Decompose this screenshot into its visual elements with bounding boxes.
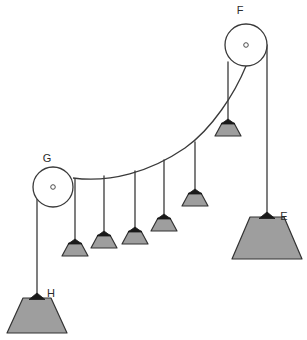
small-weight-cap-5	[188, 189, 202, 194]
pulley-hub-G	[51, 185, 56, 190]
label-weight-H: H	[47, 287, 55, 299]
small-weight-body-4	[151, 218, 177, 231]
pulley-F	[225, 24, 267, 66]
large-weight-E	[232, 212, 302, 259]
small-weight-cap-6	[221, 119, 235, 124]
small-weight-6	[215, 119, 241, 136]
small-weight-3	[122, 227, 148, 244]
large-weight-cap-H	[29, 293, 45, 300]
pulley-hub-F	[244, 43, 249, 48]
pulley-cable-diagram: F G E H	[0, 0, 307, 340]
small-weight-4	[151, 214, 177, 231]
small-weight-body-2	[91, 235, 117, 248]
large-weight-H	[7, 293, 67, 333]
label-pulley-G: G	[43, 152, 52, 164]
catenary-cable	[73, 66, 246, 179]
small-weight-2	[91, 231, 117, 248]
large-weight-cap-E	[259, 212, 275, 219]
small-weight-5	[182, 189, 208, 206]
small-weight-1	[62, 239, 88, 256]
small-weight-cap-3	[128, 227, 142, 232]
pulley-G	[33, 167, 73, 207]
small-weight-cap-1	[68, 239, 82, 244]
small-weight-body-6	[215, 123, 241, 136]
label-pulley-F: F	[237, 4, 244, 16]
small-weight-group	[62, 119, 241, 256]
label-weight-E: E	[280, 210, 287, 222]
small-weight-body-3	[122, 231, 148, 244]
small-weight-body-1	[62, 243, 88, 256]
large-weight-body-E	[232, 217, 302, 259]
small-weight-cap-4	[157, 214, 171, 219]
physics-diagram-canvas: F G E H	[0, 0, 307, 340]
large-weight-body-H	[7, 298, 67, 333]
small-weight-cap-2	[97, 231, 111, 236]
small-weight-body-5	[182, 193, 208, 206]
pulley-group	[33, 24, 267, 207]
